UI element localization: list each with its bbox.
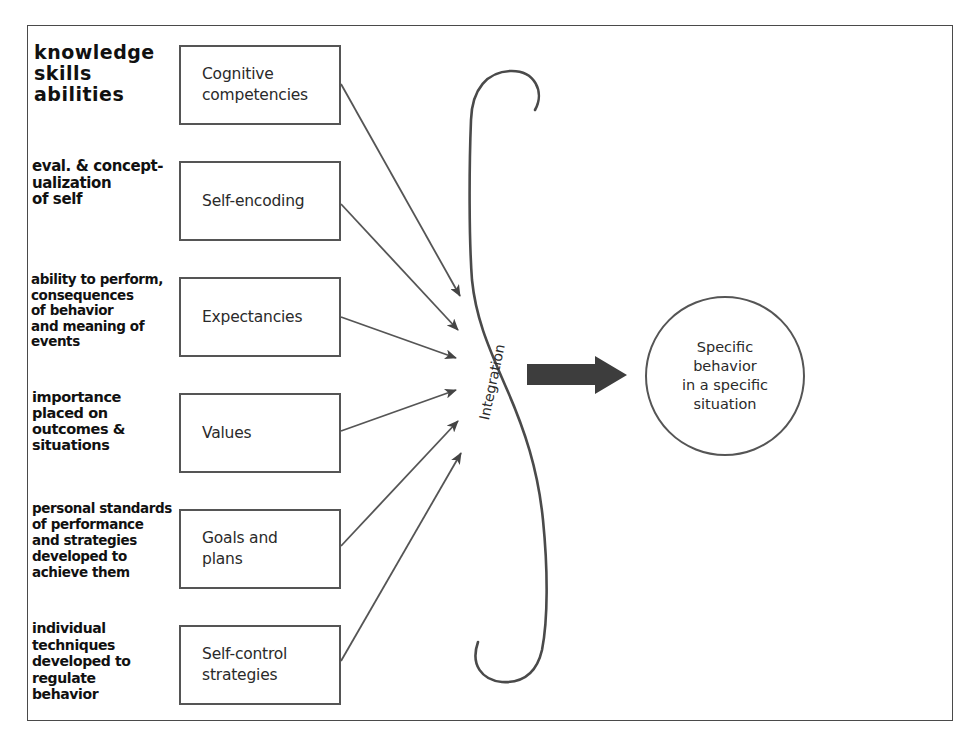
box-label: Values [202,423,251,444]
box-label: Goals and plans [202,528,278,570]
handwritten-note-goals: personal standards of performance and st… [32,500,172,580]
arrow-expectancies-to-integration [341,317,456,358]
box-self-control-strategies: Self-control strategies [179,625,341,705]
box-goals-and-plans: Goals and plans [179,509,341,589]
arrow-values-to-integration [341,390,456,431]
box-label: Expectancies [202,307,302,328]
arrow-goals-to-integration [341,421,458,546]
box-expectancies: Expectancies [179,277,341,357]
box-label: Cognitive competencies [202,64,308,106]
arrow-self-control-to-integration [341,453,461,661]
output-arrow-icon [527,356,627,394]
box-label: Self-control strategies [202,644,287,686]
input-arrows [341,84,461,661]
outcome-circle: Specific behavior in a specific situatio… [645,296,805,456]
outcome-label: Specific behavior in a specific situatio… [682,338,768,414]
arrow-cognitive-to-integration [341,84,460,296]
arrow-self-encoding-to-integration [341,204,458,330]
handwritten-note-self-control: individual techniques developed to regul… [32,620,130,703]
handwritten-note-cognitive: knowledge skills abilities [34,42,155,105]
box-self-encoding: Self-encoding [179,161,341,241]
box-values: Values [179,393,341,473]
handwritten-note-values: importance placed on outcomes & situatio… [32,389,125,453]
handwritten-note-expectancies: ability to perform, consequences of beha… [31,272,163,350]
handwritten-note-self-encoding: eval. & concept- ualization of self [32,158,163,208]
box-label: Self-encoding [202,191,304,212]
box-cognitive-competencies: Cognitive competencies [179,45,341,125]
